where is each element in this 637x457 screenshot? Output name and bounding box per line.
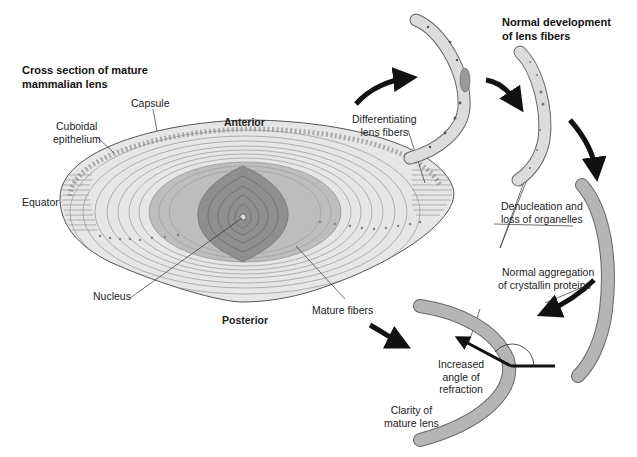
label-refraction: Increased angle of refraction [438,358,484,396]
label-mature-fibers: Mature fibers [312,304,373,317]
fiber-cell-nucleus [460,68,470,92]
label-capsule: Capsule [131,97,170,110]
arrow-3-icon [570,120,596,172]
arrow-2-icon [486,80,518,104]
label-anterior: Anterior [224,116,265,129]
label-differentiating-fibers: Differentiating lens fibers [352,113,417,138]
label-posterior: Posterior [222,314,268,327]
title-development: Normal development of lens fibers [502,16,611,43]
arrow-1-icon [356,78,408,104]
label-cuboidal-epithelium: Cuboidal epithelium [53,120,101,145]
lens-cross-section [60,120,454,302]
label-clarity: Clarity of mature lens [384,404,439,429]
label-equator: Equator [22,196,59,209]
label-aggregation: Normal aggregation of crystallin protein… [498,266,594,291]
arrow-5-icon [370,325,402,344]
label-denucleation: Denucleation and loss of organelles [501,200,583,225]
title-cross-section: Cross section of mature mammalian lens [22,64,148,91]
label-nucleus: Nucleus [93,290,131,303]
